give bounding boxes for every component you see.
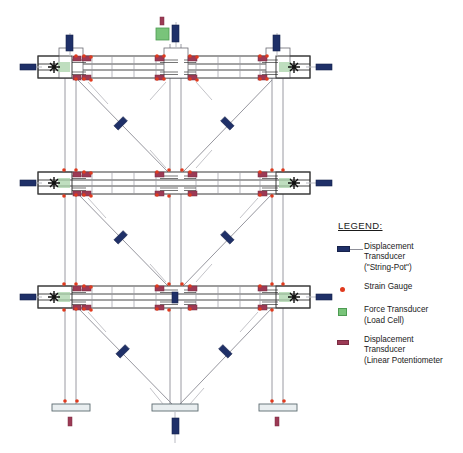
strain-gauge-icon (270, 308, 274, 312)
strain-gauge-icon (82, 77, 86, 81)
strain-gauge-icon (155, 284, 159, 288)
linear-potentiometer-icon (73, 172, 81, 177)
load-cell-icon (336, 306, 364, 319)
strain-gauge-icon (74, 282, 78, 286)
strain-gauge-icon (62, 282, 66, 286)
base-plate-center (152, 404, 198, 411)
strain-gauge-icon (270, 194, 274, 198)
legend-item-label: Displacement Transducer ("String-Pot") (364, 242, 414, 273)
beam-level-top (38, 48, 310, 78)
string-pot-icon (172, 25, 179, 42)
strain-gauge-icon (195, 55, 199, 59)
strain-gauge-icon (167, 168, 171, 172)
strain-gauge-icon (155, 193, 159, 197)
linear-potentiometer-icon (160, 17, 164, 25)
legend-item-label: Force Transducer (Load Cell) (364, 305, 428, 326)
legend-item-string-pot: Displacement Transducer ("String-Pot") (336, 242, 462, 273)
legend-panel: LEGEND: Displacement Transducer ("String… (336, 220, 462, 375)
strain-gauge-icon (270, 282, 274, 286)
strain-gauges-group (62, 54, 286, 403)
strain-gauge-icon (258, 284, 262, 288)
legend-item-strain-gauge: Strain Gauge (336, 282, 462, 296)
strain-gauge-icon (336, 283, 364, 296)
base-plate-right (259, 404, 297, 411)
strain-gauge-icon (265, 54, 269, 58)
linear-potentiometer-icon (68, 417, 72, 426)
string-pot-icon (316, 64, 332, 70)
strain-gauge-icon (74, 193, 78, 197)
string-pot-icon (20, 64, 36, 70)
load-cell-icon (156, 28, 169, 40)
leader-lines-group (88, 82, 258, 404)
legend-item-label: Strain Gauge (364, 282, 412, 292)
legend-item-label: Displacement Transducer (Linear Potentio… (364, 335, 443, 366)
strain-gauge-icon (62, 308, 66, 312)
string-pot-icon (20, 294, 36, 300)
strain-gauge-icon (62, 168, 66, 172)
strain-gauge-icon (74, 77, 78, 81)
strain-gauge-icon (258, 77, 262, 81)
string-pot-icon (66, 35, 73, 51)
strain-gauge-icon (162, 54, 166, 58)
string-pot-icon (221, 117, 234, 130)
strain-gauge-icon (270, 399, 274, 403)
strain-gauge-icon (167, 194, 171, 198)
linear-potentiometers-group (68, 56, 279, 426)
strain-gauge-icon (62, 194, 66, 198)
legend-item-linear-potentiometer: Displacement Transducer (Linear Potentio… (336, 335, 462, 366)
columns-group (65, 44, 283, 408)
strain-gauge-icon (89, 171, 93, 175)
linear-potentiometer-icon (73, 286, 81, 291)
strain-gauge-icon (180, 282, 184, 286)
string-pot-icon (336, 243, 364, 256)
strain-gauge-icon (89, 78, 93, 82)
strain-gauge-icon (258, 170, 262, 174)
strain-gauge-icon (167, 282, 171, 286)
strain-gauge-icon (188, 284, 192, 288)
string-pot-icon (20, 180, 36, 186)
strain-gauge-icon (188, 193, 192, 197)
linear-potentiometer-icon (336, 336, 364, 349)
strain-gauge-icon (265, 77, 269, 81)
string-pot-icon (316, 180, 332, 186)
brace-s3-left (78, 80, 168, 172)
strain-gauge-icon (82, 307, 86, 311)
strain-gauge-icon (89, 308, 93, 312)
strain-gauge-icon (155, 54, 159, 58)
strain-gauge-icon (74, 54, 78, 58)
base-plate-left (52, 404, 90, 411)
base-supports-group (52, 404, 297, 443)
strain-gauge-icon (63, 399, 67, 403)
strain-gauge-icon (258, 54, 262, 58)
legend-title: LEGEND: (338, 220, 462, 231)
strain-gauge-icon (167, 308, 171, 312)
strain-gauge-icon (162, 77, 166, 81)
strain-gauge-icon (82, 170, 86, 174)
legend-item-load-cell: Force Transducer (Load Cell) (336, 305, 462, 326)
strain-gauge-icon (74, 307, 78, 311)
strain-gauge-icon (188, 307, 192, 311)
strain-gauge-icon (89, 285, 93, 289)
strain-gauge-icon (258, 307, 262, 311)
string-pot-icon (172, 292, 178, 303)
brace-s1-left (78, 308, 172, 404)
strain-gauge-icon (282, 399, 286, 403)
brace-s2-left (78, 194, 168, 286)
strain-gauge-icon (270, 168, 274, 172)
strain-gauge-icon (258, 193, 262, 197)
strain-gauge-icon (89, 194, 93, 198)
strain-gauge-icon (188, 77, 192, 81)
strain-gauge-icon (155, 170, 159, 174)
linear-potentiometer-icon (275, 417, 279, 426)
strain-gauge-icon (188, 54, 192, 58)
string-pot-icon (116, 345, 129, 358)
strain-gauge-icon (89, 55, 93, 59)
strain-gauge-icon (155, 307, 159, 311)
string-pot-icon (273, 35, 280, 51)
strain-gauge-icon (281, 168, 285, 172)
brace-string-pots (114, 117, 234, 358)
string-pot-icon (221, 231, 234, 244)
strain-gauge-icon (74, 168, 78, 172)
joint-box-top-center (164, 48, 188, 78)
strain-gauge-icon (195, 78, 199, 82)
